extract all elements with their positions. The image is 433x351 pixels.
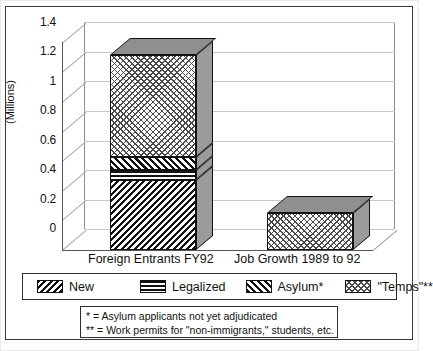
legend-item-asylum[interactable]: Asylum* (246, 280, 324, 294)
bar-foreign-entrants[interactable] (110, 55, 196, 250)
legend-item-legalized[interactable]: Legalized (140, 280, 226, 294)
depth-tick-0.6 (62, 141, 86, 162)
legend-item-new[interactable]: New (37, 280, 94, 294)
bar-segment-legalized[interactable] (110, 170, 196, 180)
legend-swatch-temps (345, 280, 371, 293)
depth-tick-0.2 (62, 200, 86, 221)
legend-swatch-asylum (246, 280, 272, 293)
x-axis-line (62, 250, 373, 251)
y-axis-title: (Millions) (4, 80, 16, 124)
y-tick-0.2: 0.2 (4, 193, 56, 205)
bar-segment-new[interactable] (110, 180, 196, 250)
legend-label-temps: "Temps"** (377, 280, 432, 294)
depth-tick-1.4 (62, 23, 86, 44)
bar-segment-temps-jobgrowth[interactable] (267, 213, 353, 250)
legend-label-legalized: Legalized (172, 280, 226, 294)
depth-tick-0.8 (62, 112, 86, 133)
y-tick-0: 0 (4, 222, 56, 234)
footnote-double-asterisk: ** = Work permits for "non-immigrants," … (86, 323, 332, 337)
y-axis-labels: 1.4 1.2 1 0.8 0.6 0.4 0.2 0 (0, 22, 56, 272)
plot-area (62, 22, 395, 250)
bar-side-new (196, 166, 213, 250)
legend: New Legalized Asylum* "Temps"** (22, 273, 397, 300)
legend-swatch-legalized (140, 280, 166, 293)
footnote-asterisk: * = Asylum applicants not yet adjudicate… (86, 309, 332, 323)
y-tick-1.4: 1.4 (4, 16, 56, 28)
y-axis-line (62, 42, 63, 250)
gridline-1.4 (84, 22, 395, 23)
legend-label-asylum: Asylum* (278, 280, 324, 294)
bar-segment-temps[interactable] (110, 55, 196, 157)
bar-job-growth[interactable] (267, 213, 353, 250)
category-label-job-growth: Job Growth 1989 to 92 (234, 252, 360, 266)
bar-side-temps (196, 41, 213, 157)
depth-tick-1.2 (62, 52, 86, 73)
legend-swatch-new (37, 280, 63, 293)
depth-tick-0.4 (62, 171, 86, 192)
bar-segment-asylum[interactable] (110, 157, 196, 170)
depth-tick-1.0 (62, 82, 86, 103)
y-tick-0.4: 0.4 (4, 163, 56, 175)
legend-item-temps[interactable]: "Temps"** (345, 280, 432, 294)
category-label-foreign-entrants: Foreign Entrants FY92 (88, 252, 214, 266)
legend-label-new: New (69, 280, 94, 294)
y-tick-0.6: 0.6 (4, 134, 56, 146)
footnote-box: * = Asylum applicants not yet adjudicate… (80, 306, 338, 338)
y-tick-1.2: 1.2 (4, 45, 56, 57)
x-axis-labels: Foreign Entrants FY92 Job Growth 1989 to… (62, 252, 407, 270)
depth-tick-0 (62, 230, 86, 251)
